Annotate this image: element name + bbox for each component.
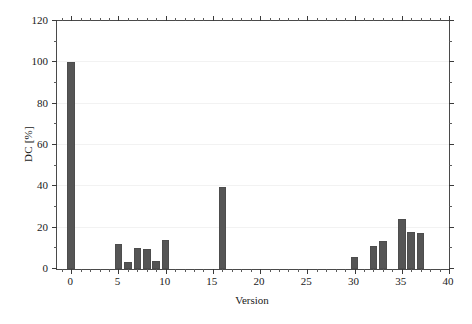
y-tick-label: 20 [14, 222, 48, 233]
x-axis-minor-tick [194, 269, 195, 272]
y-axis-minor-tick [449, 165, 452, 166]
x-axis-minor-tick [345, 269, 346, 272]
x-axis-minor-tick [251, 269, 252, 272]
x-axis-minor-tick [421, 269, 422, 272]
x-tick-label: 40 [428, 276, 468, 287]
x-axis-minor-tick [326, 269, 327, 272]
x-axis-minor-tick [62, 269, 63, 272]
x-axis-minor-tick [147, 269, 148, 272]
x-axis-minor-tick [440, 269, 441, 272]
bar [124, 262, 132, 269]
x-axis-minor-tick [90, 269, 91, 272]
x-tick-label: 25 [286, 276, 326, 287]
y-axis-tick [449, 227, 454, 228]
x-axis-minor-tick [241, 269, 242, 272]
y-tick-label: 100 [14, 56, 48, 67]
x-axis-tick [449, 269, 450, 274]
y-tick-label: 120 [14, 15, 48, 26]
y-axis-minor-tick [449, 206, 452, 207]
y-axis-minor-tick [449, 123, 452, 124]
x-axis-minor-tick [137, 269, 138, 272]
x-tick-label: 20 [239, 276, 279, 287]
y-tick-label: 40 [14, 180, 48, 191]
x-axis-minor-tick [336, 269, 337, 272]
chart-figure: DC [%] 020406080100120 0510152025303540 … [0, 0, 472, 324]
x-axis-minor-tick [373, 269, 374, 272]
y-tick-label: 60 [14, 139, 48, 150]
y-axis-tick [449, 61, 454, 62]
x-axis-minor-tick [392, 269, 393, 272]
x-axis-tick [402, 269, 403, 274]
x-axis-tick [213, 269, 214, 274]
x-axis-tick [71, 269, 72, 274]
x-axis-minor-tick [298, 269, 299, 272]
bar [379, 241, 387, 269]
x-axis-tick [118, 269, 119, 274]
x-axis-tick [260, 269, 261, 274]
bar [351, 257, 359, 269]
x-tick-label: 15 [192, 276, 232, 287]
bar [152, 261, 160, 269]
bar [398, 219, 406, 269]
x-tick-label: 30 [334, 276, 374, 287]
x-axis-minor-tick [203, 269, 204, 272]
y-tick-label: 0 [14, 263, 48, 274]
bar [417, 233, 425, 269]
x-axis-tick [166, 269, 167, 274]
bar [407, 232, 415, 269]
x-tick-labels: 0510152025303540 [56, 276, 448, 292]
x-axis-minor-tick [175, 269, 176, 272]
y-tick-label: 80 [14, 98, 48, 109]
y-axis-minor-tick [449, 82, 452, 83]
y-tick-labels: 020406080100120 [14, 20, 48, 268]
x-axis-minor-tick [364, 269, 365, 272]
y-axis-minor-tick [449, 247, 452, 248]
bar-layer [57, 21, 449, 269]
x-axis-minor-tick [128, 269, 129, 272]
x-axis-minor-tick [156, 269, 157, 272]
bar [162, 240, 170, 269]
bar [115, 244, 123, 269]
x-axis-minor-tick [288, 269, 289, 272]
x-axis-minor-tick [430, 269, 431, 272]
bar [67, 62, 75, 269]
x-axis-minor-tick [81, 269, 82, 272]
y-axis-tick [449, 103, 454, 104]
x-tick-label: 10 [145, 276, 185, 287]
y-axis-tick [449, 185, 454, 186]
x-axis-tick [449, 16, 450, 21]
x-axis-minor-tick [232, 269, 233, 272]
x-axis-tick [355, 269, 356, 274]
x-tick-label: 0 [50, 276, 90, 287]
x-tick-label: 35 [381, 276, 421, 287]
x-tick-label: 5 [97, 276, 137, 287]
x-axis-minor-tick [270, 269, 271, 272]
bar [134, 248, 142, 269]
x-axis-minor-tick [317, 269, 318, 272]
y-axis-minor-tick [449, 41, 452, 42]
x-axis-minor-tick [279, 269, 280, 272]
x-axis-minor-tick [411, 269, 412, 272]
x-axis-minor-tick [222, 269, 223, 272]
x-axis-minor-tick [185, 269, 186, 272]
x-axis-minor-tick [383, 269, 384, 272]
plot-area [56, 20, 450, 270]
bar [370, 246, 378, 269]
x-axis-minor-tick [109, 269, 110, 272]
x-axis-minor-tick [100, 269, 101, 272]
x-axis-tick [307, 269, 308, 274]
bar [219, 187, 227, 269]
x-axis-label: Version [56, 294, 448, 306]
bar [143, 249, 151, 269]
y-axis-tick [449, 144, 454, 145]
